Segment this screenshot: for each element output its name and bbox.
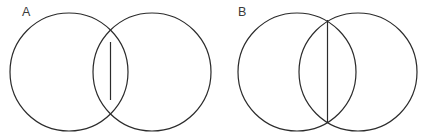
- panel-b-left-circle: [238, 13, 356, 131]
- panel-a-label: A: [22, 5, 31, 19]
- figure-canvas: A B: [0, 0, 423, 139]
- panel-a: A: [10, 5, 211, 131]
- panel-b-label: B: [238, 5, 247, 19]
- panel-b-right-circle: [299, 13, 417, 131]
- panel-b: B: [238, 5, 417, 131]
- two-circle-intersection-diagram: A B: [0, 0, 423, 139]
